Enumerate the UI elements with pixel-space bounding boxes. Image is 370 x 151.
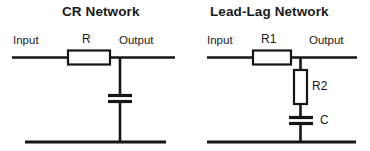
lead-lag-network-input-label: Input [207, 35, 233, 47]
lead-lag-network-title: Lead-Lag Network [210, 5, 329, 19]
circuit-schematic-lines [0, 0, 370, 151]
circuit-diagram-figure: CR Network Input R Output [0, 0, 370, 151]
lead-lag-network-capacitor-label: C [320, 114, 329, 126]
cr-resistor-r-body [68, 51, 110, 65]
lead-lag-network-resistor-r1-label: R1 [261, 33, 276, 45]
lead-lag-network-resistor-r2-label: R2 [312, 80, 327, 92]
leadlag-resistor-r2-body [294, 70, 307, 104]
lead-lag-network-schematic [207, 51, 357, 143]
lead-lag-network-output-label: Output [309, 35, 344, 47]
cr-network-schematic [12, 51, 175, 143]
leadlag-resistor-r1-body [253, 51, 291, 65]
